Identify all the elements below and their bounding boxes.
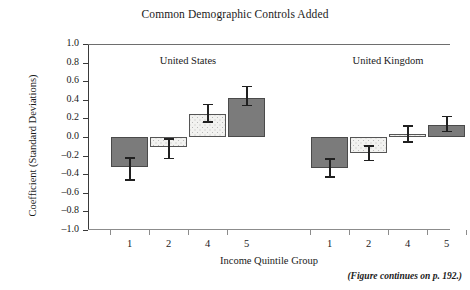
error-bar-cap-bottom <box>442 131 452 133</box>
x-axis-tick <box>227 230 228 235</box>
error-bar-cap-top <box>242 86 252 88</box>
y-axis-tick: 0.2 <box>83 118 88 119</box>
y-axis-tick: –0.2 <box>83 156 88 157</box>
error-bar-cap-top <box>125 157 135 159</box>
error-bar-cap-bottom <box>242 105 252 107</box>
error-bar-cap-bottom <box>403 141 413 143</box>
y-axis-tick-label: –1.0 <box>45 223 79 234</box>
error-bar-cap-top <box>403 125 413 127</box>
y-axis-line <box>88 44 89 230</box>
x-axis-tick <box>388 230 389 235</box>
y-axis-tick-label: 0.6 <box>45 74 79 85</box>
x-axis-tick <box>188 230 189 235</box>
x-axis-tick <box>349 230 350 235</box>
error-bar-cap-top <box>325 158 335 160</box>
error-bar-cap-top <box>364 145 374 147</box>
x-axis-tick <box>110 230 111 235</box>
x-axis-title: Income Quintile Group <box>88 255 450 266</box>
x-axis-tick-label: 2 <box>157 238 181 249</box>
error-bar-stem <box>129 157 131 180</box>
error-bar-stem <box>168 138 170 159</box>
x-axis-tick-label: 1 <box>318 238 342 249</box>
x-axis-tick-label: 5 <box>435 238 459 249</box>
y-axis-tick-label: –0.4 <box>45 167 79 178</box>
y-axis-tick-label: 0.4 <box>45 93 79 104</box>
error-bar-stem <box>329 158 331 178</box>
y-axis-tick-label: –0.2 <box>45 149 79 160</box>
x-axis-tick-label: 2 <box>357 238 381 249</box>
y-axis-tick-label: –0.8 <box>45 204 79 215</box>
x-axis-tick-label: 1 <box>118 238 142 249</box>
y-axis-tick: –0.4 <box>83 174 88 175</box>
x-axis-line <box>88 229 450 230</box>
plot-area: 1.00.80.60.40.20.0–0.2–0.4–0.6–0.8–1.0 1… <box>88 44 450 230</box>
y-axis-tick: 1.0 <box>83 44 88 45</box>
error-bar-cap-bottom <box>125 179 135 181</box>
x-axis-tick-label: 4 <box>396 238 420 249</box>
error-bar-stem <box>246 86 248 106</box>
figure-container: Common Demographic Controls Added Coeffi… <box>0 0 470 290</box>
y-axis-tick-label: 0.8 <box>45 56 79 67</box>
y-axis-tick-label: –0.6 <box>45 186 79 197</box>
y-axis-tick: –1.0 <box>83 230 88 231</box>
error-bar-stem <box>407 125 409 143</box>
y-axis-tick: 0.8 <box>83 63 88 64</box>
error-bar-cap-bottom <box>325 176 335 178</box>
error-bar-cap-top <box>164 138 174 140</box>
figure-footnote: (Figure continues on p. 192.) <box>347 271 462 281</box>
y-axis-tick: 0.4 <box>83 100 88 101</box>
y-axis-title: Coefficient (Standard Deviations) <box>27 46 38 246</box>
x-axis-tick <box>427 230 428 235</box>
x-axis-tick-label: 5 <box>235 238 259 249</box>
y-axis-tick-label: 0.0 <box>45 130 79 141</box>
error-bar-cap-bottom <box>364 160 374 162</box>
y-axis-tick-label: 0.2 <box>45 111 79 122</box>
panel-label: United Kingdom <box>328 55 448 66</box>
y-axis-tick: –0.6 <box>83 193 88 194</box>
error-bar-stem <box>207 104 209 124</box>
error-bar-cap-bottom <box>203 121 213 123</box>
x-axis-tick <box>310 230 311 235</box>
y-axis-tick: 0.0 <box>83 137 88 138</box>
x-axis-tick-label: 4 <box>196 238 220 249</box>
x-axis-tick <box>466 230 467 235</box>
chart-title: Common Demographic Controls Added <box>0 8 470 20</box>
y-axis-tick: –0.8 <box>83 211 88 212</box>
error-bar-cap-bottom <box>164 158 174 160</box>
y-axis-tick: 0.6 <box>83 81 88 82</box>
error-bar-cap-top <box>442 116 452 118</box>
y-axis-tick-label: 1.0 <box>45 37 79 48</box>
error-bar-cap-top <box>203 104 213 106</box>
zero-baseline <box>88 44 450 45</box>
panel-label: United States <box>128 55 248 66</box>
x-axis-tick <box>149 230 150 235</box>
